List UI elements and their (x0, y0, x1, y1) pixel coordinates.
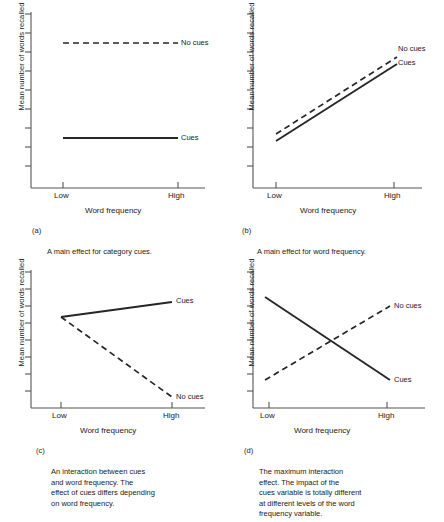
y-axis-label: Mean number of words recalled (247, 2, 256, 112)
x-tick-label-high: High (378, 411, 394, 420)
x-tick-label-high: High (168, 191, 184, 200)
series-line-no-cues (61, 317, 172, 397)
series-line-cues (276, 64, 397, 141)
panel-a: Mean number of words recalled Low High W… (0, 0, 222, 256)
series-line-no-cues (276, 57, 397, 134)
x-axis-ticks (269, 402, 387, 408)
x-axis-label: Word frequency (85, 206, 141, 215)
x-axis-label: Word frequency (80, 426, 136, 435)
x-tick-label-low: Low (267, 191, 282, 200)
series-label-cues: Cues (176, 296, 194, 305)
caption-text: An interaction between cues and word fre… (51, 467, 216, 509)
y-axis-label: Mean number of words recalled (247, 258, 256, 368)
y-axis-ticks (25, 14, 31, 166)
series-label-no-cues: No cues (394, 301, 422, 310)
series-label-cues: Cues (181, 133, 199, 142)
series-label-no-cues: No cues (176, 392, 204, 401)
x-axis-ticks (276, 182, 394, 188)
x-tick-label-low: Low (54, 191, 69, 200)
x-axis-ticks (63, 182, 178, 188)
y-axis-label: Mean number of words recalled (17, 258, 26, 368)
caption-tag: (a) (32, 226, 41, 237)
caption-text: The maximum interaction effect. The impa… (259, 467, 439, 520)
series-label-no-cues: No cues (181, 38, 209, 47)
y-axis-ticks (25, 272, 31, 391)
x-tick-label-high: High (384, 191, 400, 200)
series-label-cues: Cues (398, 58, 416, 67)
series-label-no-cues: No cues (398, 44, 426, 53)
x-axis-ticks (61, 402, 172, 408)
panel-c: Mean number of words recalled Low High W… (0, 256, 222, 512)
x-axis-label: Word frequency (300, 206, 356, 215)
series-line-no-cues (265, 306, 390, 380)
series-line-cues (61, 302, 172, 317)
y-axis-label: Mean number of words recalled (17, 2, 26, 112)
series-label-cues: Cues (394, 375, 412, 384)
series-line-cues (265, 297, 390, 380)
panel-d: Mean number of words recalled Low High W… (222, 256, 444, 512)
caption-tag: (d) (244, 446, 253, 457)
x-tick-label-high: High (163, 411, 179, 420)
x-axis-label: Word frequency (294, 426, 350, 435)
caption-tag: (b) (242, 226, 251, 237)
x-tick-label-low: Low (260, 411, 275, 420)
panel-d-caption: (d) The maximum interaction effect. The … (244, 446, 439, 522)
panel-b: Mean number of words recalled Low High W… (222, 0, 444, 256)
panel-c-caption: (c) An interaction between cues and word… (36, 446, 216, 520)
caption-tag: (c) (36, 446, 45, 457)
x-tick-label-low: Low (52, 411, 67, 420)
